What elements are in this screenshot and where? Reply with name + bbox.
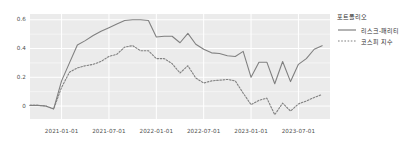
legend-item[interactable]: 코스피 지수 (337, 36, 415, 46)
y-axis-tick-label: 0.4 (2, 45, 26, 51)
x-axis-tick-label: 2021-01-01 (45, 128, 79, 134)
legend-item-label: 리스크-패리티 (361, 26, 399, 35)
line-chart: 00.20.40.6 2021-01-012021-07-012022-01-0… (0, 0, 417, 156)
plot-panel (30, 14, 330, 119)
x-axis-tick-label: 2022-07-01 (187, 128, 221, 134)
plot-area (30, 14, 330, 119)
solid-line-icon (337, 25, 357, 35)
legend-item-label: 코스피 지수 (361, 37, 393, 46)
x-axis-tick-label: 2023-01-01 (234, 128, 268, 134)
legend-title: 포트폴리오 (337, 12, 415, 21)
legend-item[interactable]: 리스크-패리티 (337, 25, 415, 35)
y-axis-tick-label: 0 (2, 103, 26, 109)
y-axis-tick-label: 0.6 (2, 16, 26, 22)
legend: 포트폴리오 리스크-패리티코스피 지수 (337, 12, 415, 47)
x-axis-tick-label: 2021-07-01 (92, 128, 126, 134)
series-line-0 (30, 20, 322, 109)
x-axis-tick-label: 2023-07-01 (282, 128, 316, 134)
x-axis-tick-label: 2022-01-01 (140, 128, 174, 134)
series-line-1 (30, 46, 322, 115)
y-axis-tick-label: 0.2 (2, 74, 26, 80)
dotted-line-icon (337, 36, 357, 46)
legend-items: 리스크-패리티코스피 지수 (337, 25, 415, 46)
